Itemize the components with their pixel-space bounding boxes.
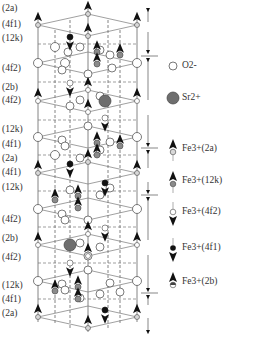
legend-item-oxygen: O2- <box>166 56 254 76</box>
legend-item-fe-2b: Fe3+(2b) <box>166 272 254 292</box>
oxygen-icon <box>166 56 180 76</box>
legend-label: Fe3+(2b) <box>182 276 217 286</box>
layer-label: (4f1) <box>2 19 21 29</box>
legend-label: O2- <box>182 60 197 70</box>
legend-item-strontium: Sr2+ <box>166 88 254 108</box>
layer-label: (4f2) <box>2 95 21 105</box>
fe-2a-atoms <box>34 1 141 331</box>
layer-label: (12k) <box>2 33 23 43</box>
fe-4f2-icon <box>166 202 180 226</box>
planes <box>38 14 137 328</box>
dimension-markers <box>141 10 158 332</box>
legend-label: Fe3+(12k) <box>182 175 222 185</box>
fe-12k-icon <box>166 171 180 195</box>
layer-label: (4f1) <box>2 294 21 304</box>
layer-label: (12k) <box>2 280 23 290</box>
fe-2a-icon <box>166 139 180 163</box>
layer-label: (12k) <box>2 182 23 192</box>
strontium-icon <box>166 88 180 108</box>
layer-label: (2b) <box>2 233 18 243</box>
layer-label: (12k) <box>2 124 23 134</box>
layer-label: (4f2) <box>2 63 21 73</box>
crystal-structure-diagram <box>0 0 166 340</box>
layer-label: (4f1) <box>2 139 21 149</box>
layer-label: (4f2) <box>2 252 21 262</box>
legend-item-fe-12k: Fe3+(12k) <box>166 171 254 191</box>
fe-4f1-icon <box>166 238 180 262</box>
layer-label: (4f1) <box>2 167 21 177</box>
layer-label: (2b) <box>2 82 18 92</box>
legend-item-fe-4f2: Fe3+(4f2) <box>166 202 254 222</box>
legend-label: Sr2+ <box>182 92 201 102</box>
layer-label: (2a) <box>2 308 17 318</box>
legend-label: Fe3+(4f1) <box>182 242 221 252</box>
layer-label: (4f2) <box>2 214 21 224</box>
legend-label: Fe3+(2a) <box>182 143 217 153</box>
fe-2b-icon <box>166 272 180 296</box>
legend-item-fe-4f1: Fe3+(4f1) <box>166 238 254 258</box>
layer-label: (2a) <box>2 153 17 163</box>
legend-item-fe-2a: Fe3+(2a) <box>166 139 254 159</box>
layer-label: (2a) <box>2 3 17 13</box>
legend-label: Fe3+(4f2) <box>182 206 221 216</box>
